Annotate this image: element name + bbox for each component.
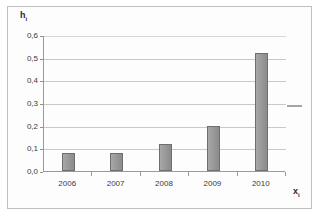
y-axis-tick-mark	[40, 59, 43, 60]
gridline	[44, 81, 286, 82]
y-axis-title-subscript: i	[26, 16, 28, 22]
x-axis-tick-label: 2006	[45, 179, 89, 188]
y-axis-tick-mark	[40, 149, 43, 150]
y-axis-tick-mark	[40, 127, 43, 128]
x-axis-tick-labels: 20062007200820092010	[43, 172, 285, 192]
y-axis-tick-label: 0,0	[14, 168, 38, 176]
bar	[207, 126, 220, 171]
x-axis-title-subscript: i	[298, 192, 300, 198]
y-axis-tick-mark	[40, 104, 43, 105]
y-axis-tick-mark	[40, 36, 43, 37]
x-axis-tick-mark	[140, 172, 141, 176]
chart-screenshot: hi xi 20062007200820092010 0,00,10,20,30…	[0, 0, 319, 216]
x-axis-title: xi	[293, 186, 300, 200]
bar	[110, 153, 123, 171]
gridline	[44, 36, 286, 37]
y-axis-tick-label: 0,3	[14, 100, 38, 108]
gridline	[44, 127, 286, 128]
x-axis-tick-mark	[188, 172, 189, 176]
gridline	[44, 104, 286, 105]
plot-area	[43, 36, 285, 172]
bar	[62, 153, 75, 171]
x-axis-tick-label: 2007	[94, 179, 138, 188]
y-axis-tick-label: 0,5	[14, 55, 38, 63]
y-axis-tick-label: 0,1	[14, 145, 38, 153]
x-axis-tick-label: 2009	[190, 179, 234, 188]
bar	[255, 53, 268, 171]
y-axis-tick-label: 0,6	[14, 32, 38, 40]
x-axis-tick-label: 2008	[142, 179, 186, 188]
y-axis-tick-mark	[40, 172, 43, 173]
bar	[159, 144, 172, 171]
x-axis-tick-mark	[237, 172, 238, 176]
scan-artifact-mark	[287, 105, 302, 107]
y-axis-tick-label: 0,2	[14, 123, 38, 131]
x-axis-tick-mark	[285, 172, 286, 176]
y-axis-tick-label: 0,4	[14, 77, 38, 85]
y-axis-title: hi	[20, 10, 27, 24]
gridline	[44, 59, 286, 60]
x-axis-tick-label: 2010	[239, 179, 283, 188]
x-axis-tick-mark	[91, 172, 92, 176]
y-axis-tick-mark	[40, 81, 43, 82]
